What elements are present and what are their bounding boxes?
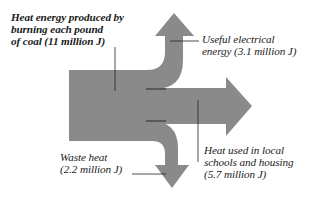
schools-heat-label: Heat used in local schools and housing (… (204, 144, 293, 180)
electrical-label-line: energy (3.1 million J) (202, 45, 296, 57)
input-label-line: Heat energy produced by (11, 11, 124, 23)
electrical-label-line: Useful electrical (202, 33, 296, 45)
schools-label-line: Heat used in local (204, 144, 293, 156)
input-label-line: of coal (11 million J) (11, 35, 124, 47)
input-energy-label: Heat energy produced by burning each pou… (11, 11, 124, 47)
schools-label-line: (5.7 million J) (204, 168, 293, 180)
waste-heat-label: Waste heat (2.2 million J) (60, 151, 122, 175)
waste-label-line: (2.2 million J) (60, 163, 122, 175)
input-label-line: burning each pound (11, 23, 124, 35)
schools-label-line: schools and housing (204, 156, 293, 168)
electrical-energy-label: Useful electrical energy (3.1 million J) (202, 33, 296, 57)
waste-label-line: Waste heat (60, 151, 122, 163)
